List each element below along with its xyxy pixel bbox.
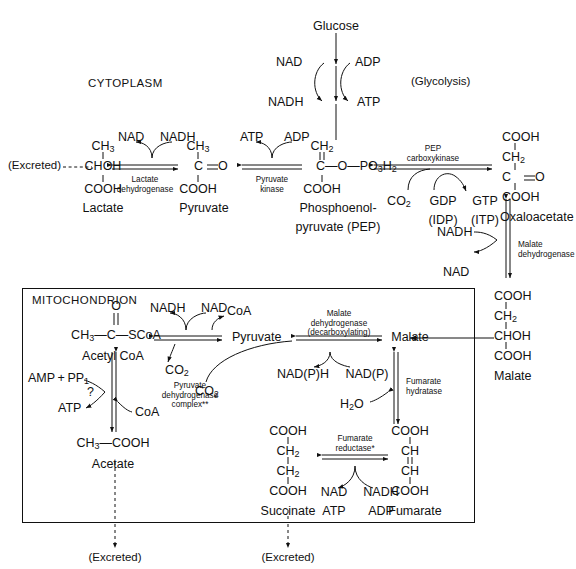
enzyme-fh-line2: hydratase: [406, 387, 442, 396]
product-co2-pdh: CO2: [165, 364, 189, 378]
cofactor-water-fh: H2O: [340, 398, 364, 412]
cofactor-nadph: NAD(P)H: [277, 368, 329, 381]
label-succinate-excreted: (Excreted): [261, 552, 314, 564]
cofactor-nadh-pdh: NADH: [150, 302, 185, 315]
metabolite-pep-line2: pyruvate (PEP): [296, 221, 381, 234]
acetyl-coa-structure-o: O: [111, 300, 121, 313]
cofactor-itp: (ITP): [471, 214, 499, 227]
label-acetate-excreted: (Excreted): [88, 552, 141, 564]
enzyme-pep-carboxykinase: PEP carboxykinase: [407, 144, 459, 163]
pathway-diagram: CYTOPLASM MITOCHONDRION Glucose NAD NADH…: [0, 0, 576, 569]
unknown-enzyme-marker: ?: [87, 386, 94, 399]
malate-cyto-structure-ch2: CH2: [494, 310, 517, 324]
pep-structure-backbone: C—O—PO3H2: [316, 160, 397, 174]
malate-cyto-structure-cooh-bottom: COOH: [494, 350, 532, 363]
oaa-structure-cooh-bottom: COOH: [502, 191, 540, 204]
enzyme-fr-line1: Fumarate: [337, 434, 372, 443]
cofactor-atp-pk: ATP: [240, 131, 263, 144]
cofactor-amp-ppi: AMP + PP1: [28, 372, 89, 386]
fumarate-structure-ch-b: CH: [401, 465, 419, 478]
succinate-structure-ch2-b: CH2: [276, 465, 299, 479]
cofactor-atp-fr: ATP: [322, 505, 345, 518]
metabolite-acetate: Acetate: [92, 458, 134, 471]
metabolite-pyruvate-cytoplasm: Pyruvate: [179, 202, 228, 215]
enzyme-malic-line2: dehydrogenase: [311, 319, 367, 328]
pathway-label-glycolysis: (Glycolysis): [411, 76, 470, 88]
product-co2-malic-enzyme: CO2: [195, 385, 219, 399]
oaa-structure-o: O: [535, 171, 545, 184]
metabolite-pep-line1: Phosphoenol-: [299, 202, 376, 215]
enzyme-fh-line1: Fumarate: [406, 377, 441, 386]
cofactor-gdp: GDP: [429, 195, 456, 208]
enzyme-fr-line2: reductase*: [335, 444, 374, 453]
oaa-structure-c: C: [502, 171, 511, 184]
enzyme-lactate-dehydrogenase: Lactate dehydrogenase: [117, 175, 173, 194]
metabolite-oxaloacetate: Oxaloacetate: [500, 211, 574, 224]
cofactor-atp-glycolysis: ATP: [357, 96, 380, 109]
cofactor-gtp: GTP: [472, 195, 498, 208]
cofactor-nad-glycolysis: NAD: [276, 56, 302, 69]
cofactor-nadh-glycolysis: NADH: [268, 96, 303, 109]
pyruvate-structure-cooh: COOH: [179, 183, 217, 196]
substrate-co2-pepck: CO2: [387, 195, 411, 209]
enzyme-ldh-line1: Lactate: [132, 175, 159, 184]
fumarate-structure-ch-a: CH: [401, 445, 419, 458]
cofactor-nad-fr: NAD: [321, 486, 347, 499]
oaa-structure-ch2: CH2: [502, 151, 525, 165]
oaa-structure-cooh-top: COOH: [502, 131, 540, 144]
enzyme-malic-line1: Malate: [327, 309, 352, 318]
cofactor-nad-pdh: NAD: [201, 302, 227, 315]
acetyl-coa-structure-main: CH3—C—SCoA: [71, 329, 161, 343]
compartment-label-mitochondrion: MITOCHONDRION: [32, 295, 137, 307]
malate-cyto-structure-choh: CHOH: [494, 330, 531, 343]
enzyme-pyruvate-kinase: Pyruvate kinase: [256, 175, 288, 194]
cofactor-nadh-mdh: NADH: [437, 226, 472, 239]
metabolite-pyruvate-mitochondrion: Pyruvate: [232, 331, 281, 344]
metabolite-lactate: Lactate: [82, 202, 123, 215]
succinate-structure-cooh-bottom: COOH: [269, 485, 307, 498]
label-lactate-excreted: (Excreted): [8, 160, 61, 172]
fumarate-structure-cooh-bottom: COOH: [391, 485, 429, 498]
fumarate-structure-cooh-top: COOH: [391, 425, 429, 438]
enzyme-mdh-line2: dehydrogenase: [518, 250, 574, 259]
pep-structure-ch2: CH2: [310, 140, 333, 154]
metabolite-succinate: Succinate: [261, 505, 316, 518]
malate-cyto-structure-cooh-top: COOH: [494, 290, 532, 303]
metabolite-fumarate: Fumarate: [388, 505, 442, 518]
enzyme-malate-dehydrogenase-decarboxylating: Malate dehydrogenase (decarboxylating): [308, 309, 371, 338]
lactate-structure-choh: CHOH: [85, 160, 122, 173]
cofactor-nadp: NAD(P): [345, 368, 388, 381]
metabolite-malate-mitochondrion: Malate: [391, 331, 429, 344]
succinate-structure-ch2-a: CH2: [276, 445, 299, 459]
metabolite-acetyl-coa: Acetyl CoA: [82, 350, 144, 363]
metabolite-malate-cytoplasm: Malate: [494, 370, 532, 383]
enzyme-malic-line3: (decarboxylating): [308, 328, 371, 337]
enzyme-mdh-line1: Malate: [518, 240, 543, 249]
compartment-label-cytoplasm: CYTOPLASM: [88, 78, 163, 90]
pep-structure-cooh: COOH: [303, 183, 341, 196]
enzyme-malate-dehydrogenase-cyto: Malate dehydrogenase: [518, 240, 574, 260]
succinate-structure-cooh-top: COOH: [269, 425, 307, 438]
cofactor-coa-acetate: CoA: [135, 406, 159, 419]
enzyme-pepck-line2: carboxykinase: [407, 154, 459, 163]
pyruvate-structure-c: C: [194, 160, 203, 173]
enzyme-fumarate-reductase: Fumarate reductase*: [335, 434, 374, 453]
enzyme-pk-line2: kinase: [260, 185, 284, 194]
enzyme-fumarate-hydratase: Fumarate hydratase: [406, 377, 442, 397]
cofactor-adp-glycolysis: ADP: [355, 56, 381, 69]
acetate-structure: CH3—COOH: [76, 437, 149, 451]
cofactor-nad-ldh: NAD: [118, 131, 144, 144]
pyruvate-structure-ch3: CH3: [186, 140, 209, 154]
cofactor-coa-pdh: CoA: [227, 305, 251, 318]
metabolite-glucose: Glucose: [313, 20, 359, 33]
cofactor-nad-mdh: NAD: [443, 266, 469, 279]
cofactor-atp-acetate: ATP: [58, 402, 81, 415]
enzyme-ldh-line2: dehydrogenase: [117, 185, 173, 194]
lactate-structure-ch3: CH3: [91, 140, 114, 154]
enzyme-pepck-line1: PEP: [425, 144, 441, 153]
pyruvate-structure-o: O: [218, 160, 228, 173]
enzyme-pdh-line3: complex**: [172, 400, 209, 409]
cofactor-adp-pk: ADP: [284, 131, 310, 144]
enzyme-pk-line1: Pyruvate: [256, 175, 288, 184]
